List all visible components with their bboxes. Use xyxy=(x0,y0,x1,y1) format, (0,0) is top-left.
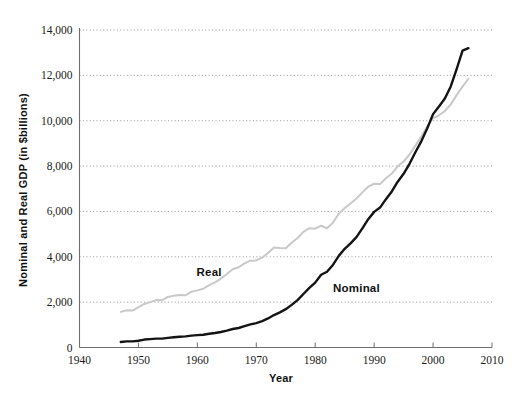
y-tick-label: 0 xyxy=(67,342,73,354)
gridlines xyxy=(80,30,493,302)
y-axis-title: Nominal and Real GDP (in $billions) xyxy=(17,93,29,287)
y-tick-label: 12,000 xyxy=(41,69,73,82)
axes xyxy=(80,28,493,348)
x-axis-title: Year xyxy=(269,372,294,384)
y-tick-label: 4,000 xyxy=(47,251,73,264)
x-tick-label: 2010 xyxy=(481,354,504,366)
x-tick-label: 1960 xyxy=(186,354,209,366)
y-tick-label: 2,000 xyxy=(47,296,73,309)
data-series xyxy=(121,48,469,342)
series-annotations: RealNominal xyxy=(197,266,380,294)
x-tick-label: 1990 xyxy=(363,354,386,366)
gdp-line-chart: 02,0004,0006,0008,00010,00012,00014,000 … xyxy=(0,0,517,398)
y-tick-label: 6,000 xyxy=(47,205,73,218)
y-tick-label: 8,000 xyxy=(47,160,73,173)
series-label-real: Real xyxy=(197,266,222,278)
y-axis-ticks: 02,0004,0006,0008,00010,00012,00014,000 xyxy=(41,24,73,354)
series-line-real xyxy=(121,79,469,312)
x-tick-label: 1940 xyxy=(68,354,91,366)
x-tick-label: 1950 xyxy=(127,354,150,366)
x-tick-label: 1980 xyxy=(304,354,327,366)
y-tick-label: 10,000 xyxy=(41,115,73,128)
chart-page: 02,0004,0006,0008,00010,00012,00014,000 … xyxy=(0,0,517,398)
series-line-nominal xyxy=(121,48,469,342)
series-label-nominal: Nominal xyxy=(333,282,380,294)
x-tick-label: 2000 xyxy=(422,354,445,366)
x-axis-ticks: 19401950196019701980199020002010 xyxy=(68,343,504,366)
x-tick-label: 1970 xyxy=(245,354,268,366)
y-tick-label: 14,000 xyxy=(41,24,73,37)
